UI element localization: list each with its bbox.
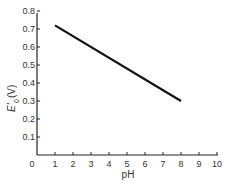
y-tick-label: 0.4 xyxy=(22,78,35,88)
x-tick-label: 4 xyxy=(106,159,111,169)
x-axis-label: pH xyxy=(122,169,135,180)
y-tick-label: 0.1 xyxy=(22,132,35,142)
y-tick-label: 0.8 xyxy=(22,6,35,16)
y-tick-label: 0.6 xyxy=(22,42,35,52)
data-series xyxy=(55,25,181,101)
x-tick-label: 0 xyxy=(29,159,34,169)
x-tick-label: 7 xyxy=(160,159,165,169)
y-label-sub: 0 xyxy=(13,99,20,103)
y-tick-label: 0.5 xyxy=(22,60,35,70)
x-tick-label: 8 xyxy=(178,159,183,169)
y-label-unit: (V) xyxy=(6,85,17,98)
x-tick-label: 6 xyxy=(142,159,147,169)
x-tick-label: 9 xyxy=(196,159,201,169)
x-tick-label: 10 xyxy=(212,159,222,169)
x-tick-label: 3 xyxy=(88,159,93,169)
y-tick-label: 0.7 xyxy=(22,24,35,34)
axes xyxy=(37,13,218,155)
y-tick-label: 0.3 xyxy=(22,96,35,106)
x-tick-label: 5 xyxy=(124,159,129,169)
series-line xyxy=(55,25,181,101)
y-tick-label: 0.2 xyxy=(22,114,35,124)
chart-figure: 012345678910 0.10.20.30.40.50.60.70.8 pH… xyxy=(0,0,233,185)
x-tick-label: 2 xyxy=(70,159,75,169)
x-tick-label: 1 xyxy=(52,159,57,169)
y-axis-label: E' 0 (V) xyxy=(6,85,20,112)
